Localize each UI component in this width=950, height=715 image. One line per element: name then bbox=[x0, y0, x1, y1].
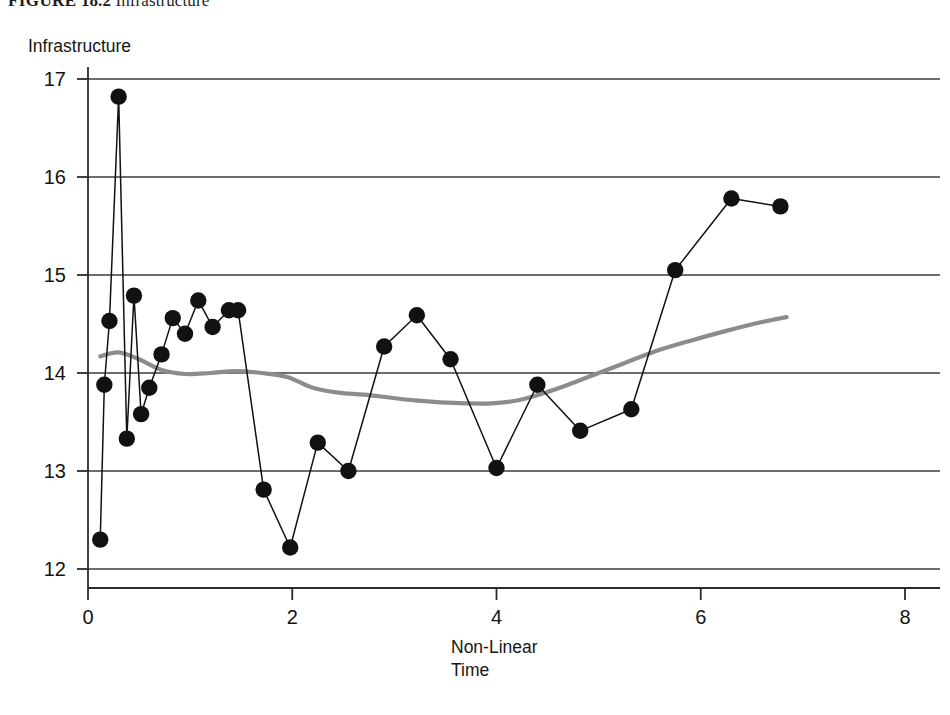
y-tick-label-14: 14 bbox=[44, 362, 66, 384]
data-point-marker bbox=[119, 430, 135, 446]
plot-canvas: 121314151617 02468 bbox=[0, 0, 950, 715]
data-point-marker bbox=[133, 406, 149, 422]
data-point-marker bbox=[572, 423, 588, 439]
data-point-marker bbox=[340, 463, 356, 479]
y-tick-label-15: 15 bbox=[44, 264, 66, 286]
data-point-marker bbox=[204, 319, 220, 335]
data-point-marker bbox=[190, 292, 206, 308]
data-point-marker bbox=[165, 310, 181, 326]
data-point-marker bbox=[442, 351, 458, 367]
data-point-marker bbox=[153, 346, 169, 362]
data-point-marker bbox=[110, 88, 126, 104]
data-point-marker bbox=[126, 287, 142, 303]
data-point-marker bbox=[529, 377, 545, 393]
x-tick-label-0: 0 bbox=[82, 606, 93, 628]
data-point-marker bbox=[667, 262, 683, 278]
data-point-marker bbox=[92, 531, 108, 547]
y-tick-label-12: 12 bbox=[44, 558, 66, 580]
y-tick-label-16: 16 bbox=[44, 166, 66, 188]
data-point-marker bbox=[488, 460, 504, 476]
x-tick-label-4: 4 bbox=[491, 606, 502, 628]
data-point-marker bbox=[177, 326, 193, 342]
data-point-marker bbox=[255, 481, 271, 497]
x-axis-tick-labels: 02468 bbox=[82, 606, 910, 628]
series-observed-markers bbox=[92, 88, 789, 555]
y-tick-label-13: 13 bbox=[44, 460, 66, 482]
data-point-marker bbox=[623, 401, 639, 417]
y-axis-ticks bbox=[77, 79, 88, 569]
data-point-marker bbox=[282, 539, 298, 555]
x-tick-label-2: 2 bbox=[287, 606, 298, 628]
data-point-marker bbox=[96, 377, 112, 393]
data-point-marker bbox=[141, 380, 157, 396]
data-point-marker bbox=[101, 313, 117, 329]
x-tick-label-6: 6 bbox=[695, 606, 706, 628]
data-point-marker bbox=[376, 338, 392, 354]
observed-polyline bbox=[100, 97, 780, 548]
y-axis-tick-labels: 121314151617 bbox=[44, 68, 66, 580]
y-tick-label-17: 17 bbox=[44, 68, 66, 90]
chart-area: Infrastructure 121314151617 02468 Non-Li… bbox=[0, 0, 950, 715]
data-point-marker bbox=[723, 190, 739, 206]
x-axis-title: Non-Linear Time bbox=[451, 636, 538, 682]
x-tick-label-8: 8 bbox=[899, 606, 910, 628]
x-axis-ticks bbox=[88, 588, 905, 600]
series-observed-lines bbox=[100, 97, 780, 548]
data-point-marker bbox=[310, 434, 326, 450]
data-point-marker bbox=[409, 307, 425, 323]
data-point-marker bbox=[230, 302, 246, 318]
data-point-marker bbox=[772, 198, 788, 214]
